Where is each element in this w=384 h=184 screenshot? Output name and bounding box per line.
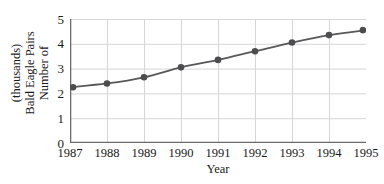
data-point-marker	[215, 57, 222, 64]
x-tick-label: 1995	[346, 147, 384, 160]
chart-canvas	[70, 19, 366, 143]
x-tick-label: 1989	[124, 147, 164, 160]
x-tick-label: 1991	[198, 147, 238, 160]
data-point-marker	[141, 74, 148, 81]
plot-area	[70, 19, 366, 143]
data-point-marker	[104, 80, 111, 87]
x-tick-label: 1993	[272, 147, 312, 160]
y-axis-title-line-3: (thousands)	[9, 44, 23, 102]
data-point-marker	[289, 39, 296, 46]
data-point-marker	[326, 32, 333, 39]
y-axis-title-line-1: Number of	[37, 46, 51, 101]
x-axis-title: Year	[70, 163, 366, 176]
data-point-marker	[360, 27, 366, 34]
data-point-marker	[178, 64, 185, 71]
x-tick-label: 1988	[87, 147, 127, 160]
data-point-marker	[70, 84, 76, 91]
x-tick-label: 1992	[235, 147, 275, 160]
data-point-marker	[252, 48, 259, 55]
x-tick-label: 1987	[50, 147, 90, 160]
x-tick-label: 1994	[309, 147, 349, 160]
chart-figure: Number of Bald Eagle Pairs (thousands) 0…	[0, 0, 384, 184]
y-axis-title-line-2: Bald Eagle Pairs	[23, 31, 37, 114]
y-axis-title: Number of Bald Eagle Pairs (thousands)	[2, 8, 58, 138]
x-tick-label: 1990	[161, 147, 201, 160]
